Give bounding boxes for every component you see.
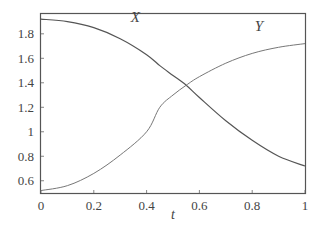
series-label-x: X xyxy=(130,9,141,25)
x-tick-label: 1 xyxy=(302,198,309,213)
y-tick-label: 1 xyxy=(28,124,35,139)
curve-x xyxy=(41,19,305,166)
y-tick-label: 1.2 xyxy=(18,100,34,115)
series-label-y: Y xyxy=(255,18,265,34)
x-tick-label: 0.4 xyxy=(138,198,155,213)
x-tick-label: 0.8 xyxy=(244,198,260,213)
x-axis-label: t xyxy=(171,207,176,222)
x-tick-label: 0.6 xyxy=(191,198,208,213)
curve-y xyxy=(41,44,305,191)
x-tick-label: 0.2 xyxy=(86,198,102,213)
y-tick-label: 1.6 xyxy=(18,51,35,66)
y-tick-label: 1.8 xyxy=(18,26,34,41)
y-tick-label: 0.8 xyxy=(18,149,34,164)
y-tick-label: 0.6 xyxy=(18,173,35,188)
x-tick-label: 0 xyxy=(38,198,45,213)
line-chart: 00.20.40.60.81 0.60.811.21.41.61.8 X Y t xyxy=(0,0,321,230)
y-tick-label: 1.4 xyxy=(18,75,35,90)
plot-frame xyxy=(41,14,306,194)
